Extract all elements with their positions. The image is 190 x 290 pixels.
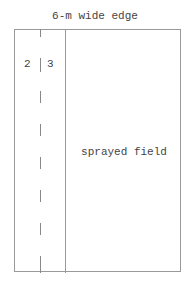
center-dash-line — [40, 223, 41, 235]
diagram-title: 6-m wide edge — [0, 10, 190, 22]
sprayed-field-label: sprayed field — [66, 146, 182, 158]
center-dash-line — [40, 190, 41, 202]
edge-label-right: 3 — [47, 58, 54, 70]
edge-label-left: 2 — [24, 58, 31, 70]
center-dash-line — [40, 58, 41, 72]
center-dash-line — [40, 29, 41, 37]
center-dash-line — [40, 91, 41, 103]
center-dash-line — [40, 124, 41, 136]
center-dash-line — [40, 157, 41, 169]
center-dash-line — [40, 256, 41, 273]
